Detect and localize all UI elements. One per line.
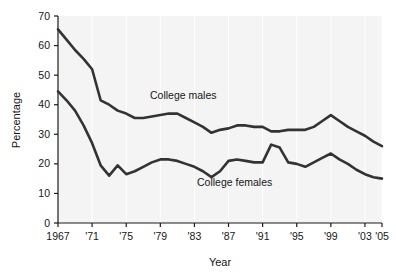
y-axis-title: Percentage [10,92,22,148]
plot-background [58,16,382,223]
x-tick-label: '71 [85,230,99,242]
y-tick-label: 10 [38,187,50,199]
y-tick-label: 60 [38,39,50,51]
x-tick-label: '03 [358,230,372,242]
x-axis-title: Year [209,256,232,268]
y-tick-label: 30 [38,128,50,140]
y-tick-label: 0 [44,217,50,229]
x-tick-label: '83 [188,230,202,242]
y-axis-tick-labels: 010203040506070 [38,10,50,229]
series-label-college-females: College females [197,176,272,188]
y-tick-label: 50 [38,69,50,81]
y-tick-label: 70 [38,10,50,22]
x-tick-label: '79 [153,230,167,242]
series-label-college-males: College males [150,89,217,101]
x-tick-label: '99 [324,230,338,242]
x-tick-label: '75 [119,230,133,242]
chart-container: 010203040506070 1967'71'75'79'83'87'91'9… [0,0,396,273]
x-tick-label: '91 [256,230,270,242]
line-chart: 010203040506070 1967'71'75'79'83'87'91'9… [0,0,396,273]
y-tick-label: 40 [38,98,50,110]
x-tick-label: 1967 [46,230,70,242]
x-axis-tick-labels: 1967'71'75'79'83'87'91'95'99'03'05 [46,230,389,242]
y-tick-label: 20 [38,157,50,169]
x-tick-label: '95 [290,230,304,242]
x-tick-label: '87 [222,230,236,242]
x-tick-label: '05 [375,230,389,242]
